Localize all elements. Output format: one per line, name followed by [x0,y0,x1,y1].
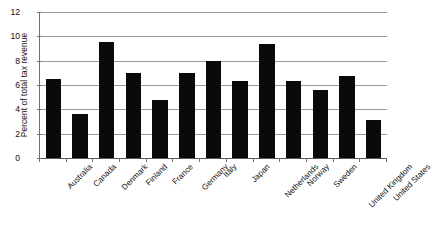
x-tick-mark [359,158,360,162]
x-tick-label: Canada [92,163,118,189]
plot-area: 024681012 [39,12,386,158]
y-tick-label: 4 [0,105,20,114]
bar [72,114,87,158]
x-tick-mark [172,158,173,162]
bar [152,100,167,158]
y-tick-label: 12 [0,8,20,17]
x-tick-mark [119,158,120,162]
x-tick-mark [333,158,334,162]
x-tick-mark [279,158,280,162]
bar [313,90,328,158]
y-tick-label: 0 [0,154,20,163]
bar [339,76,354,158]
x-tick-label: France [171,163,195,187]
x-tick-label: Finland [145,163,169,187]
bar [232,81,247,158]
y-tick-label: 2 [0,130,20,139]
x-tick-label: Sweden [333,163,359,189]
bar [286,81,301,158]
x-tick-mark [253,158,254,162]
y-tick-label: 10 [0,32,20,41]
bar [259,44,274,158]
x-tick-label: Denmark [120,163,149,192]
bar [126,73,141,158]
x-tick-mark [306,158,307,162]
x-tick-mark [386,158,387,162]
bars-group [40,12,387,158]
x-tick-mark [146,158,147,162]
y-axis-title: Percent of total tax revenue [19,5,29,165]
x-tick-mark [39,158,40,162]
x-tick-label: Japan [251,163,272,184]
x-tick-mark [199,158,200,162]
bar [366,120,381,158]
x-tick-mark [226,158,227,162]
bar [46,79,61,158]
bar [206,61,221,158]
bar [99,42,114,158]
y-tick-label: 6 [0,81,20,90]
bar [179,73,194,158]
y-tick-label: 8 [0,57,20,66]
x-tick-mark [66,158,67,162]
x-tick-label: Australia [67,163,95,191]
x-tick-mark [92,158,93,162]
x-axis-labels: AustraliaCanadaDenmarkFinlandFranceGerma… [39,163,386,225]
